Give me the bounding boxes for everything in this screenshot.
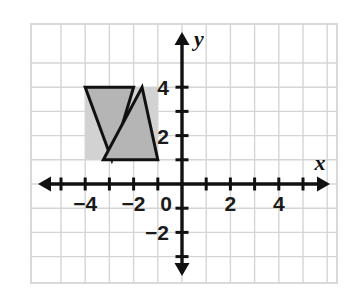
- x-tick-label: 2: [225, 192, 237, 215]
- x-tick-label: 0: [160, 192, 172, 215]
- y-tick-label: −2: [145, 221, 169, 244]
- coordinate-plane-figure: −4−2024−224 x y: [0, 0, 353, 296]
- x-axis-label: x: [314, 150, 326, 175]
- x-tick-label: −4: [73, 192, 97, 215]
- x-tick-label: −2: [122, 192, 146, 215]
- y-tick-label: 2: [157, 125, 169, 148]
- coordinate-plane-svg: −4−2024−224 x y: [0, 0, 353, 296]
- x-tick-label: 4: [273, 192, 285, 215]
- y-tick-label: 4: [157, 76, 169, 99]
- shapes-layer: [85, 87, 158, 160]
